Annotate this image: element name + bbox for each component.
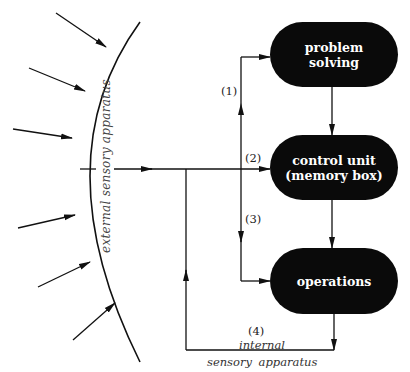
node-problem-solving-line1: problem: [305, 40, 363, 55]
node-problem-solving: problem solving: [270, 22, 398, 87]
path-label-3: (3): [245, 212, 261, 226]
external-sensory-label: external sensory apparatus: [99, 79, 113, 253]
external-sensory-arc: [90, 22, 140, 362]
node-problem-solving-line2: solving: [305, 55, 363, 70]
path-label-2: (2): [245, 151, 261, 165]
node-control-unit-line2: (memory box): [285, 168, 382, 183]
node-operations-label: operations: [297, 274, 372, 289]
node-control-unit: control unit (memory box): [270, 135, 398, 200]
node-operations: operations: [270, 248, 398, 314]
internal-sensory-label: sensory apparatus: [207, 355, 317, 369]
path-label-1: (1): [221, 84, 237, 98]
internal-label: internal: [239, 338, 285, 352]
node-control-unit-line1: control unit: [285, 153, 382, 168]
path-label-4: (4): [248, 324, 264, 338]
